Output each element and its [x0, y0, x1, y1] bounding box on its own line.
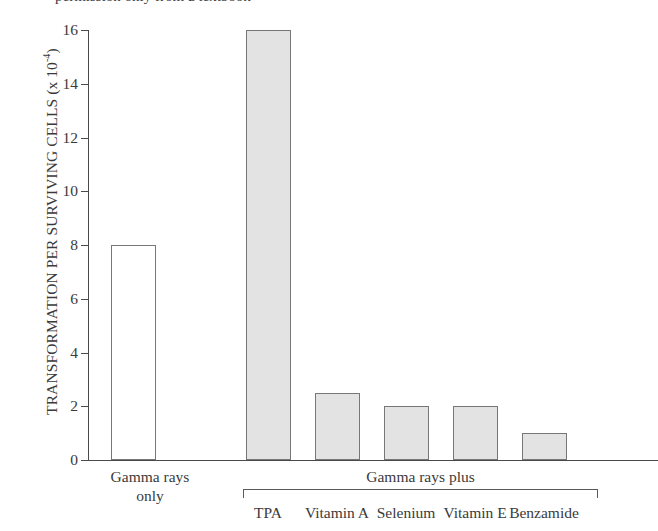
y-axis-title: TRANSFORMATION PER SURVIVING CELLS (x 10…	[41, 17, 60, 447]
y-tick-label: 6	[70, 290, 78, 308]
y-tick-label: 2	[70, 397, 78, 415]
y-tick-mark	[81, 353, 88, 354]
y-tick-mark	[81, 245, 88, 246]
group-label-gamma-only-line1: Gamma rays	[60, 467, 240, 486]
bar-gamma-rays-only	[111, 245, 156, 460]
y-tick-label: 4	[70, 344, 78, 362]
y-axis-line	[88, 30, 89, 461]
y-tick-label: 12	[63, 129, 79, 147]
y-tick-label: 8	[70, 236, 78, 254]
bar-vitamin-a	[315, 393, 360, 460]
bar-selenium	[384, 406, 429, 460]
y-tick-mark	[81, 299, 88, 300]
y-tick-mark	[81, 191, 88, 192]
x-axis-labels: Gamma rays only Gamma rays plus TPAVitam…	[0, 461, 658, 531]
bar-vitamin-e	[453, 406, 498, 460]
y-tick-label: 14	[63, 75, 79, 93]
y-axis-title-exponent: -4	[41, 54, 52, 63]
y-tick-label: 10	[63, 182, 79, 200]
y-tick-mark	[81, 30, 88, 31]
y-tick-mark	[81, 84, 88, 85]
bar-tpa	[246, 30, 291, 460]
y-tick-label: 16	[63, 21, 79, 39]
group-label-gamma-only-line2: only	[60, 486, 240, 505]
group-label-gamma-plus: Gamma rays plus	[243, 467, 598, 486]
y-tick-mark	[81, 406, 88, 407]
y-tick-mark	[81, 138, 88, 139]
y-axis-title-main: TRANSFORMATION PER SURVIVING CELLS (x 10	[43, 62, 60, 415]
caption-sliver-text: permission only from a textbook	[55, 0, 251, 4]
group-bracket	[243, 489, 598, 498]
bar-chart-figure: permission only from a textbook TRANSFOR…	[0, 0, 658, 531]
caption-sliver: permission only from a textbook	[0, 0, 658, 7]
bar-benzamide	[522, 433, 567, 460]
y-axis-title-close: )	[43, 48, 60, 53]
group-label-gamma-only: Gamma rays only	[60, 467, 240, 505]
plot-area: 1614121086420	[88, 30, 658, 461]
category-label-benzamide: Benzamide	[484, 504, 604, 522]
